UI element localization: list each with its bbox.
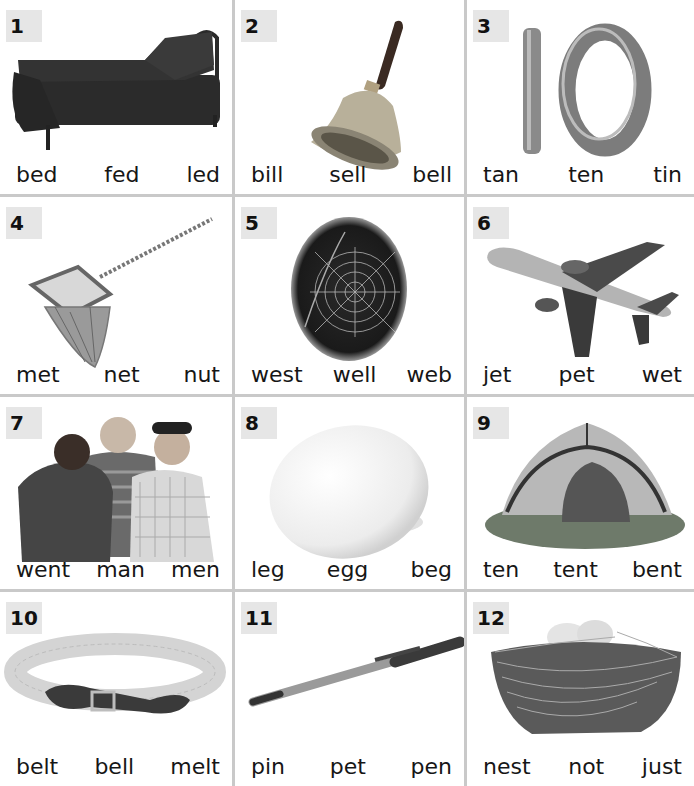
word-choice[interactable]: pen bbox=[411, 752, 452, 782]
word-choices: west well web bbox=[235, 356, 464, 390]
word-choice[interactable]: west bbox=[251, 360, 303, 390]
word-choice[interactable]: pet bbox=[330, 752, 366, 782]
item-number-badge: 11 bbox=[241, 602, 277, 634]
item-number-badge: 3 bbox=[473, 10, 509, 42]
word-choice[interactable]: nest bbox=[483, 752, 531, 782]
word-choice[interactable]: jet bbox=[483, 360, 511, 390]
word-choice[interactable]: led bbox=[186, 160, 220, 190]
word-choice[interactable]: tin bbox=[653, 160, 682, 190]
word-choices: tan ten tin bbox=[467, 156, 694, 190]
word-choice[interactable]: man bbox=[96, 555, 145, 585]
word-choice[interactable]: pin bbox=[251, 752, 285, 782]
item-number-badge: 1 bbox=[6, 10, 42, 42]
word-choice[interactable]: bell bbox=[412, 160, 452, 190]
word-choice[interactable]: pet bbox=[558, 360, 594, 390]
word-choice[interactable]: well bbox=[333, 360, 377, 390]
word-choice[interactable]: tent bbox=[553, 555, 598, 585]
word-choice[interactable]: egg bbox=[327, 555, 368, 585]
word-choice[interactable]: not bbox=[568, 752, 604, 782]
item-number-badge: 9 bbox=[473, 407, 509, 439]
cell-4: 4 met net nut bbox=[0, 197, 235, 397]
word-choice[interactable]: nut bbox=[183, 360, 220, 390]
cell-8: 8 leg egg beg bbox=[235, 397, 467, 592]
word-choice[interactable]: net bbox=[103, 360, 139, 390]
item-number-badge: 10 bbox=[6, 602, 42, 634]
word-choice[interactable]: wet bbox=[642, 360, 682, 390]
word-choice[interactable]: ten bbox=[568, 160, 604, 190]
cell-9: 9 ten tent bent bbox=[467, 397, 694, 592]
cell-11: 11 pin pet pen bbox=[235, 592, 467, 786]
cell-2: 2 bill sell bell bbox=[235, 0, 467, 197]
word-choice[interactable]: melt bbox=[170, 752, 220, 782]
word-choice[interactable]: men bbox=[171, 555, 220, 585]
word-choice[interactable]: fed bbox=[104, 160, 139, 190]
cell-12: 12 nest not just bbox=[467, 592, 694, 786]
word-choice[interactable]: sell bbox=[329, 160, 366, 190]
word-choice[interactable]: bed bbox=[16, 160, 57, 190]
word-choice[interactable]: belt bbox=[16, 752, 58, 782]
cell-1: 1 bed fed led bbox=[0, 0, 235, 197]
word-choices: belt bell melt bbox=[0, 748, 232, 782]
item-number-badge: 4 bbox=[6, 207, 42, 239]
word-picture-grid: 1 bed fed led 2 bill sell bell 3 bbox=[0, 0, 694, 786]
item-number-badge: 8 bbox=[241, 407, 277, 439]
word-choice[interactable]: leg bbox=[251, 555, 285, 585]
word-choices: met net nut bbox=[0, 356, 232, 390]
word-choices: ten tent bent bbox=[467, 551, 694, 585]
word-choice[interactable]: bill bbox=[251, 160, 283, 190]
item-number-badge: 2 bbox=[241, 10, 277, 42]
word-choice[interactable]: web bbox=[406, 360, 452, 390]
cell-7: 7 went man men bbox=[0, 397, 235, 592]
word-choices: pin pet pen bbox=[235, 748, 464, 782]
word-choices: bed fed led bbox=[0, 156, 232, 190]
word-choice[interactable]: met bbox=[16, 360, 60, 390]
item-number-badge: 12 bbox=[473, 602, 509, 634]
word-choice[interactable]: bent bbox=[632, 555, 682, 585]
word-choices: went man men bbox=[0, 551, 232, 585]
word-choice[interactable]: tan bbox=[483, 160, 519, 190]
cell-6: 6 jet pet wet bbox=[467, 197, 694, 397]
word-choice[interactable]: bell bbox=[94, 752, 134, 782]
word-choices: nest not just bbox=[467, 748, 694, 782]
word-choices: bill sell bell bbox=[235, 156, 464, 190]
word-choices: jet pet wet bbox=[467, 356, 694, 390]
word-choice[interactable]: went bbox=[16, 555, 70, 585]
word-choice[interactable]: beg bbox=[411, 555, 452, 585]
word-choices: leg egg beg bbox=[235, 551, 464, 585]
word-choice[interactable]: just bbox=[642, 752, 682, 782]
word-choice[interactable]: ten bbox=[483, 555, 519, 585]
cell-10: 10 belt bell melt bbox=[0, 592, 235, 786]
item-number-badge: 7 bbox=[6, 407, 42, 439]
item-number-badge: 5 bbox=[241, 207, 277, 239]
cell-5: 5 west well web bbox=[235, 197, 467, 397]
cell-3: 3 tan ten tin bbox=[467, 0, 694, 197]
item-number-badge: 6 bbox=[473, 207, 509, 239]
